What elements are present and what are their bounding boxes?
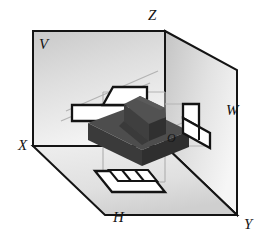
label-plane-w: W	[226, 103, 239, 118]
label-axis-x: X	[18, 138, 27, 153]
projection-diagram-figure: V Z W Y X H O	[0, 0, 272, 243]
top-view-inner-strip	[109, 170, 157, 181]
label-origin-o: O	[167, 132, 176, 144]
label-plane-v: V	[39, 37, 48, 52]
label-axis-z: Z	[148, 8, 156, 23]
label-plane-h: H	[113, 210, 124, 225]
label-axis-y: Y	[244, 217, 252, 232]
